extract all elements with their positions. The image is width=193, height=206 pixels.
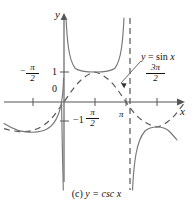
sin-curve-annotation: y = sin x bbox=[141, 52, 175, 62]
x-tick-label-pi: π bbox=[119, 110, 124, 119]
y-tick-label-one: 1 bbox=[52, 67, 57, 77]
numerator: π bbox=[26, 63, 39, 72]
y-axis-label: y bbox=[55, 9, 60, 20]
caption-body: y = csc x bbox=[85, 188, 121, 199]
numerator: 3π bbox=[146, 63, 165, 72]
numerator: π bbox=[86, 108, 99, 117]
csc-branch-right bbox=[133, 127, 178, 190]
csc-graph-figure: y x 1 0 −1 − π 2 π 2 π 3π 2 y = sin x (c… bbox=[0, 0, 193, 206]
y-tick-label-neg-one: −1 bbox=[73, 115, 84, 125]
denominator: 2 bbox=[86, 119, 99, 128]
figure-caption: (c) y = csc x bbox=[0, 188, 193, 199]
csc-branch-middle bbox=[66, 18, 124, 72]
sin-annotation-equals: = sin bbox=[145, 51, 170, 62]
sin-label-leader bbox=[121, 62, 140, 88]
origin-label: 0 bbox=[52, 84, 57, 94]
caption-prefix: (c) bbox=[72, 188, 83, 199]
x-tick-label-3pi-over-2: 3π 2 bbox=[146, 63, 165, 84]
x-tick-label-neg-pi-over-2: − π 2 bbox=[26, 63, 39, 84]
plot-canvas bbox=[0, 0, 193, 206]
denominator: 2 bbox=[146, 74, 165, 83]
minus-sign: − bbox=[20, 66, 25, 75]
x-tick-label-pi-over-2: π 2 bbox=[86, 108, 99, 129]
csc-branch-left-descending bbox=[62, 102, 64, 190]
sin-label-leader-arrowhead bbox=[121, 83, 127, 88]
x-axis-label: x bbox=[180, 106, 185, 117]
denominator: 2 bbox=[26, 74, 39, 83]
sin-annotation-x: x bbox=[170, 51, 174, 62]
